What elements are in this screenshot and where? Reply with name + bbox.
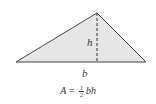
fraction-numerator: 1 bbox=[79, 85, 84, 92]
formula-equals: = bbox=[69, 85, 75, 96]
formula-fraction: 1 2 bbox=[79, 85, 84, 98]
height-label: h bbox=[87, 36, 93, 48]
triangle-shape bbox=[16, 13, 146, 62]
formula-rhs: bh bbox=[86, 85, 96, 96]
fraction-denominator: 2 bbox=[79, 92, 84, 98]
base-label: b bbox=[82, 67, 88, 79]
area-formula: A = 1 2 bh bbox=[0, 85, 156, 98]
formula-lhs: A bbox=[60, 85, 66, 96]
